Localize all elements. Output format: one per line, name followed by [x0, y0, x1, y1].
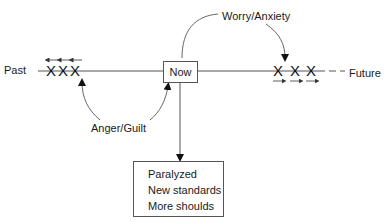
diagram-canvas: Past X X X Now X X X Future Worry/Anxiet…	[0, 0, 392, 222]
anger-guilt-label: Anger/Guilt	[91, 123, 146, 134]
future-marker-2: X	[290, 63, 300, 78]
past-label: Past	[4, 65, 26, 76]
future-label: Future	[349, 68, 381, 79]
past-marker-3: X	[70, 63, 80, 78]
worry-anxiety-label: Worry/Anxiety	[222, 11, 290, 22]
worry-arc	[182, 14, 218, 58]
outcome-line-new-standards: New standards	[148, 183, 223, 199]
past-marker-2: X	[58, 63, 68, 78]
outcome-box: Paralyzed New standards More shoulds	[133, 161, 224, 217]
outcome-line-paralyzed: Paralyzed	[148, 167, 223, 183]
outcome-line-more-shoulds: More shoulds	[148, 199, 223, 215]
future-marker-3: X	[306, 63, 316, 78]
now-box: Now	[163, 61, 198, 83]
anger-arc-right	[150, 86, 168, 120]
future-marker-1: X	[273, 63, 283, 78]
past-marker-1: X	[46, 63, 56, 78]
worry-arc-arrow	[266, 24, 285, 58]
anger-arc-left	[82, 82, 100, 120]
now-label: Now	[169, 67, 191, 78]
